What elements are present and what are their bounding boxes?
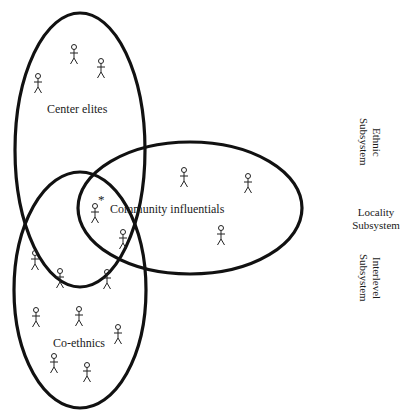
person-icon (83, 363, 91, 383)
person-icon (50, 354, 58, 374)
ethnic-subsystem-line2: Subsystem (358, 118, 370, 166)
person-icon (31, 251, 39, 271)
center-elites-label: Center elites (47, 102, 107, 117)
person-icon (97, 59, 105, 79)
interlevel-subsystem-line1: Interlevel (371, 257, 383, 299)
person-icon (32, 308, 40, 328)
person-icon (34, 74, 42, 94)
person-icon (180, 168, 188, 188)
person-icon (75, 307, 83, 327)
interlevel-subsystem-label: Interlevel Subsystem (357, 245, 383, 311)
person-icon (244, 174, 252, 194)
ethnic-subsystem-line1: Ethnic (371, 128, 383, 157)
locality-subsystem-label: Locality Subsystem (345, 206, 407, 232)
center-elites-ellipse (15, 13, 145, 287)
asterisk-marker: * (98, 192, 105, 208)
community-influentials-label: Community influentials (110, 202, 224, 217)
locality-subsystem-line2: Subsystem (345, 219, 407, 232)
locality-subsystem-line1: Locality (345, 206, 407, 219)
person-icon (217, 226, 225, 246)
person-icon (70, 45, 78, 65)
person-icon (114, 325, 122, 345)
interlevel-subsystem-line2: Subsystem (358, 254, 370, 302)
ethnic-subsystem-label: Ethnic Subsystem (357, 112, 383, 172)
co-ethnics-label: Co-ethnics (53, 336, 105, 351)
